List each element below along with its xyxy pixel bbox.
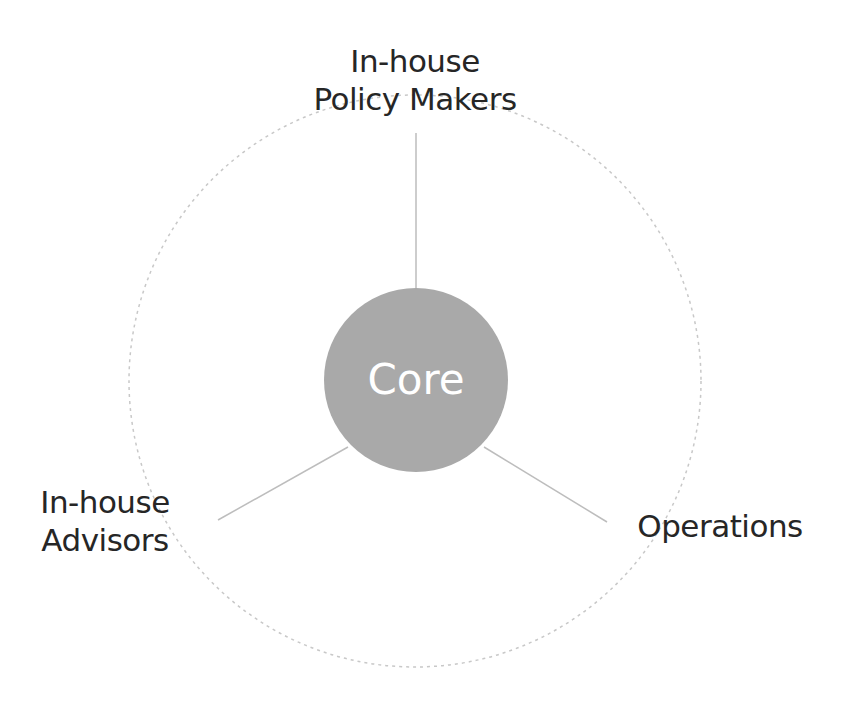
core-label: Core	[316, 355, 516, 405]
node-policy-makers-line2: Policy Makers	[265, 80, 565, 118]
node-policy-makers: In-house Policy Makers	[265, 42, 565, 118]
node-operations: Operations	[615, 507, 825, 545]
spoke-bottom-left	[218, 447, 348, 520]
node-operations-line1: Operations	[615, 507, 825, 545]
node-advisors-line2: Advisors	[5, 521, 205, 559]
node-advisors: In-house Advisors	[5, 483, 205, 559]
node-advisors-line1: In-house	[5, 483, 205, 521]
spoke-bottom-right	[484, 447, 607, 522]
node-policy-makers-line1: In-house	[265, 42, 565, 80]
